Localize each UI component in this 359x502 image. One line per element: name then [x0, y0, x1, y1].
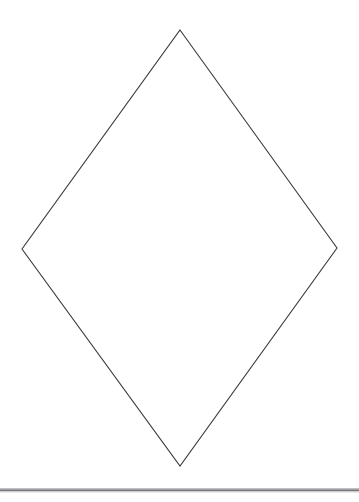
page-canvas: [0, 0, 359, 502]
page-background: [0, 0, 359, 502]
figure-canvas: [0, 0, 359, 502]
